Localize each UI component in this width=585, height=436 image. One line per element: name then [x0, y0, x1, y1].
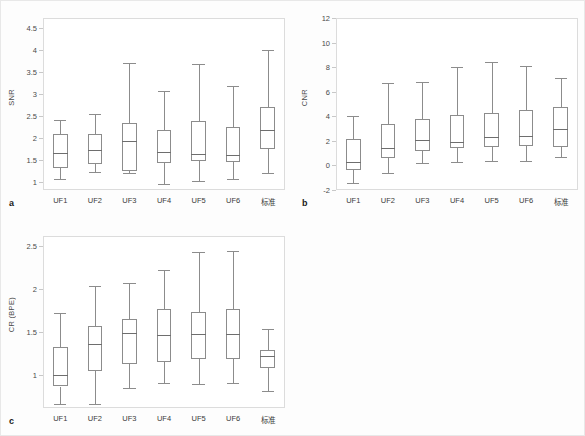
- box-plot-a-标准: [1, 1, 293, 219]
- cap-lower: [555, 157, 567, 158]
- whisker-upper: [268, 50, 269, 107]
- panel-c-xtick-标准: 标准: [250, 414, 285, 425]
- whisker-lower: [561, 147, 562, 157]
- box-plot-c-标准: [1, 219, 293, 436]
- cap-upper: [555, 78, 567, 79]
- box-iqr: [260, 350, 275, 368]
- whisker-upper: [561, 78, 562, 108]
- box-iqr: [553, 107, 568, 147]
- whisker-upper: [268, 329, 269, 351]
- whisker-lower: [268, 149, 269, 173]
- panel-a-snr: SNR a 11.522.533.544.5UF1UF2UF3UF4UF5UF6…: [1, 1, 293, 219]
- median-line: [260, 356, 275, 357]
- box-plot-b-标准: [294, 1, 585, 219]
- box-iqr: [260, 107, 275, 149]
- panel-b-cnr: CNR b -2024681012UF1UF2UF3UF4UF5UF6标准: [294, 1, 585, 219]
- cap-lower: [262, 173, 274, 174]
- figure-container: SNR a 11.522.533.544.5UF1UF2UF3UF4UF5UF6…: [0, 0, 585, 436]
- whisker-lower: [268, 368, 269, 390]
- panel-a-xtick-标准: 标准: [250, 196, 285, 207]
- cap-upper: [262, 329, 274, 330]
- cap-lower: [262, 391, 274, 392]
- panel-b-xtick-标准: 标准: [543, 196, 578, 207]
- panel-c-cr-bpe: CR (BPE) c 11.522.5UF1UF2UF3UF4UF5UF6标准: [1, 219, 293, 436]
- cap-upper: [262, 50, 274, 51]
- median-line: [553, 129, 568, 130]
- median-line: [260, 130, 275, 131]
